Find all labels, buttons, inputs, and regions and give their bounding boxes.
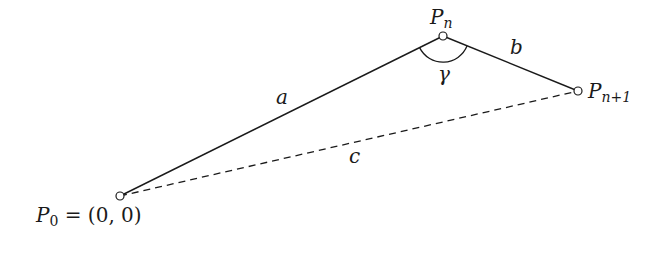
vertex-p0 [116,192,124,200]
label-edge-b: b [510,35,523,59]
label-p0: P0 = (0, 0) [35,203,142,229]
triangle-diagram: Pn Pn+1 P0 = (0, 0) a b c γ [0,0,670,263]
label-edge-a: a [276,85,288,109]
label-pn: Pn [429,5,453,31]
label-angle-gamma: γ [438,62,450,86]
label-edge-c: c [349,144,360,168]
vertex-pn [439,32,447,40]
label-pn1: Pn+1 [587,79,631,105]
angle-gamma-arc [420,46,468,62]
edge-a [120,36,443,196]
vertex-pn1 [574,87,582,95]
